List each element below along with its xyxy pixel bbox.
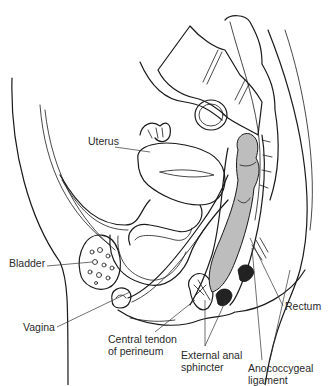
uterine-cavity bbox=[160, 170, 214, 177]
label-al-line2: ligament bbox=[248, 374, 313, 386]
label-uterus: Uterus bbox=[88, 135, 119, 147]
label-bladder: Bladder bbox=[9, 257, 45, 269]
label-vagina: Vagina bbox=[23, 321, 55, 333]
label-central-tendon-line2: of perineum bbox=[108, 345, 177, 357]
label-eas-line1: External anal bbox=[181, 349, 242, 361]
anterior-body-contour bbox=[12, 78, 68, 385]
label-external-anal-sphincter: External anal sphincter bbox=[181, 349, 242, 373]
abdominal-wall-line bbox=[40, 105, 110, 245]
label-rectum: Rectum bbox=[285, 300, 321, 312]
external-anal-sphincter-lower bbox=[238, 265, 254, 282]
label-central-tendon: Central tendon of perineum bbox=[108, 333, 177, 357]
label-eas-line2: sphincter bbox=[181, 361, 242, 373]
label-anococcygeal-ligament: Anococcygeal ligament bbox=[248, 362, 313, 386]
bladder-texture bbox=[88, 248, 114, 285]
label-al-line1: Anococcygeal bbox=[248, 362, 313, 374]
fallopian-tube bbox=[140, 123, 170, 141]
peritoneum bbox=[140, 62, 222, 120]
anococcygeal-fibers bbox=[252, 238, 268, 260]
perineum-contour bbox=[118, 310, 235, 325]
label-central-tendon-line1: Central tendon bbox=[108, 333, 177, 345]
external-anal-sphincter-upper bbox=[216, 289, 232, 306]
sacrum bbox=[158, 26, 262, 135]
